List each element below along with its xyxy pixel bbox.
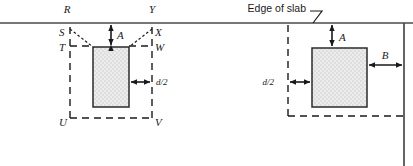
label-v: V [155, 116, 163, 128]
left-column-shape [93, 47, 129, 107]
figure-canvas: R S T U V W X Y A d/2 A B d/2 Edge of sl… [0, 0, 413, 166]
label-left-dhalf: d/2 [156, 77, 168, 87]
engineering-figure: R S T U V W X Y A d/2 A B d/2 Edge of sl… [0, 0, 413, 166]
right-column-shape [312, 48, 367, 107]
label-t: T [59, 41, 66, 53]
label-r: R [63, 3, 71, 15]
label-left-a: A [116, 29, 124, 41]
right-diagram-group [288, 11, 404, 166]
label-right-b: B [382, 49, 389, 61]
left-diagram-group [70, 25, 152, 118]
edge-of-slab-label: Edge of slab [248, 2, 307, 14]
label-right-dhalf: d/2 [262, 77, 274, 87]
edge-of-slab-leader-line [310, 11, 322, 23]
label-u: U [59, 116, 68, 128]
label-s: S [59, 26, 65, 38]
label-right-a: A [338, 31, 346, 43]
label-x: X [154, 26, 163, 38]
label-y: Y [149, 3, 157, 15]
label-w: W [155, 41, 165, 53]
